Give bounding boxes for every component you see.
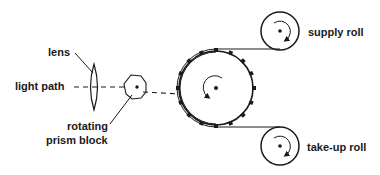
light-path-line bbox=[74, 87, 180, 94]
rotating-prism-label-line2: prism block bbox=[46, 134, 108, 146]
take-up-roll-label: take-up roll bbox=[307, 141, 366, 153]
supply-roll-rotation-arrow-icon bbox=[274, 21, 290, 40]
drum-center-dot bbox=[214, 86, 218, 90]
supply-roll-center-dot bbox=[278, 29, 282, 33]
sprocket-tooth bbox=[176, 86, 180, 90]
film-strip bbox=[177, 49, 280, 127]
sprocket-tooth bbox=[240, 58, 246, 64]
sprocket-drum bbox=[176, 48, 256, 128]
lens-leader-line bbox=[75, 53, 93, 73]
take-up-roll bbox=[261, 127, 299, 165]
take-up-roll-rotation-arrow-icon bbox=[274, 136, 290, 155]
take-up-roll-center-dot bbox=[278, 144, 282, 148]
sprocket-tooth bbox=[252, 86, 256, 90]
sprocket-tooth bbox=[214, 48, 218, 52]
lens-label: lens bbox=[48, 46, 70, 58]
prism-leader-line bbox=[110, 95, 132, 124]
supply-roll bbox=[261, 12, 299, 50]
prism-center-dot bbox=[135, 85, 138, 88]
prism-block-shape bbox=[124, 75, 146, 99]
sprocket-tooth bbox=[214, 124, 218, 128]
light-path-label: light path bbox=[15, 80, 65, 92]
drum-rotation-arrow-icon bbox=[203, 76, 222, 97]
sprocket-tooth bbox=[186, 112, 192, 118]
rotating-prism-label-line1: rotating bbox=[67, 120, 108, 132]
sprocket-tooth bbox=[240, 112, 246, 118]
supply-roll-label: supply roll bbox=[308, 26, 364, 38]
sprocket-tooth bbox=[186, 58, 192, 64]
